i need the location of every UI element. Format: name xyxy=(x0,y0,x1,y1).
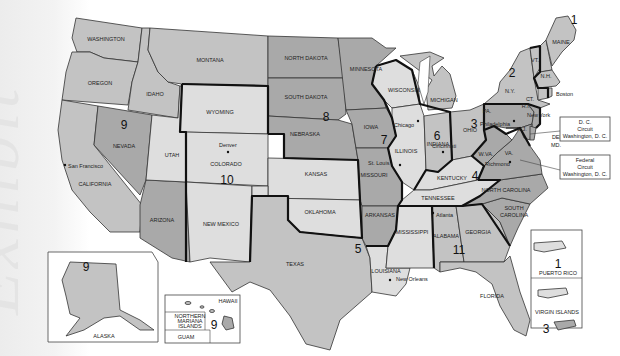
city-san-francisco: San Francisco xyxy=(68,163,103,169)
federal-callout-line3: Washington, D. C. xyxy=(563,171,608,177)
label-missouri: MISSOURI xyxy=(360,172,388,178)
label-wisconsin: WISCONSIN xyxy=(388,87,420,93)
label-louisiana: LOUISIANA xyxy=(371,268,401,274)
circuit-number-6: 6 xyxy=(434,129,441,143)
circuit-number-9: 9 xyxy=(121,118,128,132)
city-atlanta: Atlanta xyxy=(436,212,454,218)
circuit-number-1: 1 xyxy=(571,13,578,27)
circuit-number-4: 4 xyxy=(472,169,479,183)
state-kansas xyxy=(268,158,360,200)
city-new-orleans: New Orleans xyxy=(396,276,428,282)
label-virgin-islands: VIRGIN ISLANDS xyxy=(535,309,579,315)
label-arkansas: ARKANSAS xyxy=(365,212,395,218)
label-wyoming: WYOMING xyxy=(206,109,234,115)
circuit-number-3: 3 xyxy=(471,117,478,131)
dc-callout-line1: D. C. xyxy=(579,119,592,125)
label-minnesota: MINNESOTA xyxy=(350,66,383,72)
label-florida: FLORIDA xyxy=(480,293,504,299)
label-south-carolina-1: SOUTH xyxy=(504,205,523,211)
label-washington: WASHINGTON xyxy=(87,36,125,42)
state-nebraska xyxy=(268,116,358,160)
circuit-number-2: 2 xyxy=(509,66,516,80)
city-chicago: Chicago xyxy=(394,122,414,128)
label-new-york: N.Y. xyxy=(505,88,515,94)
label-arizona: ARIZONA xyxy=(150,217,175,223)
label-utah: UTAH xyxy=(165,152,180,158)
label-nmi-3: ISLANDS xyxy=(178,323,202,329)
city-dot-san-francisco xyxy=(64,164,66,166)
label-colorado: COLORADO xyxy=(210,161,242,167)
label-new-jersey: N.J. xyxy=(517,126,527,132)
label-pennsylvania: PA. xyxy=(483,108,492,114)
dc-callout-line3: Washington, D. C. xyxy=(563,133,608,139)
label-puerto-rico: PUERTO RICO xyxy=(539,270,578,276)
label-south-carolina-2: CAROLINA xyxy=(500,212,528,218)
vi-circuit-number: 3 xyxy=(543,322,550,336)
label-alaska: ALASKA xyxy=(93,333,115,339)
alaska-circuit-number: 9 xyxy=(83,260,90,274)
city-dot-st-louis xyxy=(399,164,401,166)
circuit-number-8: 8 xyxy=(323,110,330,124)
label-maine: MAINE xyxy=(552,39,570,45)
federal-callout-line2: Circuit xyxy=(577,164,593,170)
label-iowa: IOWA xyxy=(364,124,379,130)
label-michigan: MICHIGAN xyxy=(430,97,458,103)
city-dot-atlanta xyxy=(432,212,434,214)
city-new-york: New York xyxy=(527,112,550,118)
label-north-dakota: NORTH DAKOTA xyxy=(284,55,328,61)
city-dot-chicago xyxy=(417,120,419,122)
city-boston: Boston xyxy=(556,91,573,97)
label-mississippi: MISSISSIPPI xyxy=(396,229,429,235)
us-circuit-map: WASHINGTON OREGON IDAHO MONTANA CALIFORN… xyxy=(0,0,620,356)
label-virginia: VA. xyxy=(505,150,514,156)
label-west-virginia: W.VA. xyxy=(479,151,494,157)
city-denver: Denver xyxy=(219,142,237,148)
label-texas: TEXAS xyxy=(286,261,304,267)
circuit-number-5: 5 xyxy=(355,242,362,256)
city-st-louis: St. Louis xyxy=(368,160,390,166)
label-illinois: ILLINOIS xyxy=(395,148,418,154)
state-connecticut xyxy=(538,88,548,100)
circuit-number-7: 7 xyxy=(381,133,388,147)
state-delaware xyxy=(530,126,536,140)
label-new-mexico: NEW MEXICO xyxy=(203,221,240,227)
label-south-dakota: SOUTH DAKOTA xyxy=(285,94,328,100)
hawaii-circuit-number: 9 xyxy=(211,318,218,332)
label-new-hampshire: N.H. xyxy=(541,73,552,79)
label-nebraska: NEBRASKA xyxy=(290,131,320,137)
label-oregon: OREGON xyxy=(88,80,112,86)
label-kentucky: KENTUCKY xyxy=(437,175,467,181)
label-kansas: KANSAS xyxy=(305,171,328,177)
virgin-islands-shape xyxy=(554,320,576,330)
label-tennessee: TENNESSEE xyxy=(421,195,455,201)
label-hawaii: HAWAII xyxy=(218,298,238,304)
city-richmond: Richmond xyxy=(485,161,510,167)
circuit-number-10: 10 xyxy=(220,173,234,187)
label-north-carolina: NORTH CAROLINA xyxy=(481,187,530,193)
label-nevada: NEVADA xyxy=(113,143,136,149)
city-dot-new-orleans xyxy=(389,279,391,281)
label-guam: GUAM xyxy=(178,334,195,340)
city-dot-cincinnati xyxy=(442,151,444,153)
label-vermont: VT. xyxy=(531,57,539,63)
city-cincinnati: Cincinnati xyxy=(432,143,456,149)
city-philadelphia: Philadelphia xyxy=(480,121,511,127)
label-oklahoma: OKLAHOMA xyxy=(304,209,336,215)
label-rhode-island: R.I. xyxy=(522,103,531,109)
label-connecticut: CT. xyxy=(526,96,535,102)
label-montana: MONTANA xyxy=(196,57,223,63)
label-georgia: GEORGIA xyxy=(465,229,491,235)
dc-callout-line2: Circuit xyxy=(577,126,593,132)
label-maryland: MD. xyxy=(551,142,562,148)
city-dot-philadelphia xyxy=(513,120,515,122)
label-alabama: ALABAMA xyxy=(433,233,459,239)
circuit-number-11: 11 xyxy=(453,243,466,257)
label-idaho: IDAHO xyxy=(146,91,164,97)
pr-circuit-number: 1 xyxy=(555,257,562,271)
label-california: CALIFORNIA xyxy=(78,181,111,187)
city-dot-denver xyxy=(227,151,229,153)
federal-callout-line1: Federal xyxy=(576,157,595,163)
